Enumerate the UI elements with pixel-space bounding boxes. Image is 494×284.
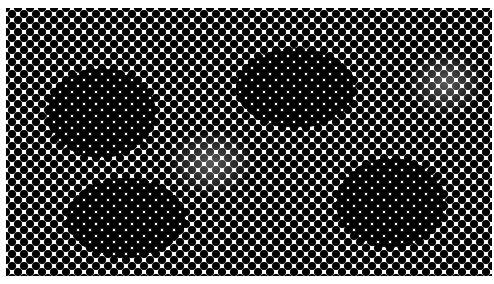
halftone-texture (6, 8, 492, 276)
dark-patch (336, 158, 446, 248)
light-patch (166, 128, 256, 198)
light-patch (406, 48, 486, 118)
dark-patch (66, 178, 186, 258)
dark-patch (46, 68, 156, 158)
dark-patch (236, 48, 356, 128)
